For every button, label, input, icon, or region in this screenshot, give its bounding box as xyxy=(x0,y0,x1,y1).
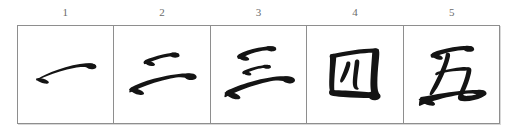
column-label-1: 1 xyxy=(17,6,114,26)
column-label-5: 5 xyxy=(403,6,500,26)
character-grid xyxy=(17,25,500,124)
brush-character-one xyxy=(18,26,113,123)
brush-character-two xyxy=(114,26,209,123)
column-label-3: 3 xyxy=(210,6,307,26)
character-cell-1 xyxy=(18,26,114,123)
character-cell-3 xyxy=(211,26,307,123)
column-label-2: 2 xyxy=(114,6,211,26)
column-label-4: 4 xyxy=(307,6,404,26)
character-cell-5 xyxy=(404,26,499,123)
brush-character-four xyxy=(307,26,402,123)
character-cell-2 xyxy=(114,26,210,123)
column-label-row: 1 2 3 4 5 xyxy=(17,6,500,26)
character-cell-4 xyxy=(307,26,403,123)
brush-character-three xyxy=(211,26,306,123)
brush-character-five xyxy=(404,26,499,123)
calligraphy-practice-sheet: 1 2 3 4 5 xyxy=(0,0,519,138)
